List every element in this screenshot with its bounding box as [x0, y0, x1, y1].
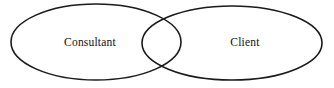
ellipse-label-consultant: Consultant: [64, 36, 116, 48]
venn-diagram: Consultant Client: [0, 0, 334, 88]
venn-diagram-canvas: Consultant Client: [0, 0, 334, 88]
ellipse-label-client: Client: [230, 36, 260, 48]
